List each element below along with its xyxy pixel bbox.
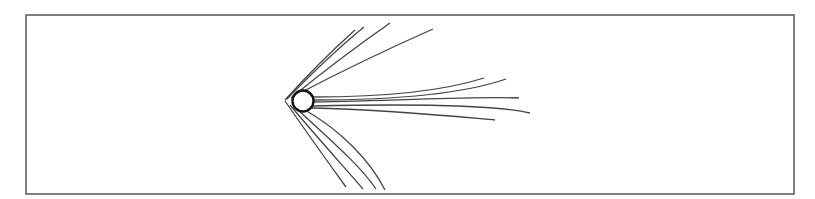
upper-streamlines: [285, 23, 433, 100]
lower-streamline-4: [305, 110, 385, 190]
streamline-diagram: [0, 0, 815, 199]
upper-streamline-3: [291, 23, 390, 98]
wake-streamlines: [312, 78, 530, 120]
upper-streamline-2: [287, 27, 364, 99]
circular-body: [293, 91, 314, 112]
wake-streamline-1: [313, 78, 484, 97]
lower-streamline-2: [290, 105, 363, 189]
upper-streamline-4: [296, 29, 433, 95]
lower-streamlines: [285, 101, 385, 190]
wake-streamline-5: [312, 108, 495, 120]
lower-streamline-1: [285, 101, 346, 187]
lower-streamline-3: [297, 109, 376, 189]
